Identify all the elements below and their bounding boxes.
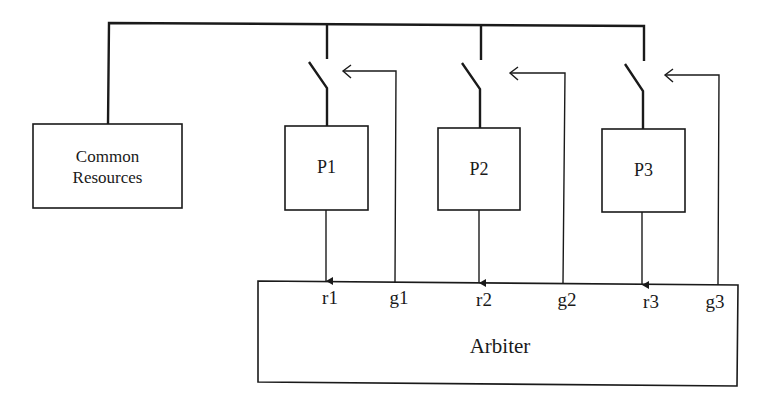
r1-label: r1 bbox=[315, 287, 345, 309]
switch-p1 bbox=[309, 62, 327, 126]
switch-p3 bbox=[625, 64, 643, 129]
common-resources-line1: Common bbox=[33, 146, 182, 167]
g2-label: g2 bbox=[552, 289, 582, 311]
p2-label: P2 bbox=[438, 159, 520, 180]
switch-p2 bbox=[462, 63, 480, 128]
arbiter-diagram: Common Resources P1 P2 P3 r1 g1 r2 g2 r3… bbox=[0, 0, 766, 403]
r2-label: r2 bbox=[469, 289, 499, 311]
p3-label: P3 bbox=[602, 160, 685, 181]
g3-label: g3 bbox=[700, 291, 730, 313]
diagram-lines bbox=[0, 0, 766, 403]
common-resources-line2: Resources bbox=[33, 167, 182, 188]
r3-label: r3 bbox=[636, 291, 666, 313]
arbiter-label: Arbiter bbox=[440, 334, 560, 359]
p1-label: P1 bbox=[285, 157, 368, 178]
common-resources-label: Common Resources bbox=[33, 146, 182, 188]
g1-label: g1 bbox=[384, 287, 414, 309]
